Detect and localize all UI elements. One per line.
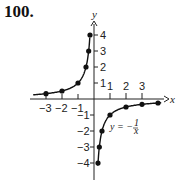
- y-axis-label: y: [91, 8, 97, 20]
- x-tick-label: −3: [39, 102, 52, 114]
- svg-text:x: x: [133, 125, 139, 136]
- hyperbola-graph: xy−3−2−11231234−1−2−3−4y = −1x: [0, 0, 177, 183]
- y-tick-label: 2: [100, 61, 106, 73]
- x-tick-label: 1: [107, 80, 113, 92]
- data-point: [75, 80, 80, 85]
- x-tick-label: −2: [55, 102, 68, 114]
- data-point: [87, 32, 92, 37]
- y-tick-label: −2: [77, 125, 90, 137]
- x-tick-label: 3: [139, 80, 145, 92]
- y-tick-label: 4: [100, 29, 106, 41]
- curve-left-branch: [33, 38, 90, 95]
- y-tick-label: −4: [77, 157, 90, 169]
- data-point: [139, 102, 144, 107]
- data-point: [59, 88, 64, 93]
- x-tick-label: 2: [123, 80, 129, 92]
- data-point: [95, 160, 100, 165]
- data-point: [123, 104, 128, 109]
- data-point: [43, 91, 48, 96]
- data-point: [86, 48, 91, 53]
- y-tick-label: −3: [77, 141, 90, 153]
- y-tick-label: −1: [77, 109, 90, 121]
- data-point: [83, 64, 88, 69]
- y-tick-label: 3: [100, 45, 106, 57]
- curve-right-branch: [98, 103, 161, 166]
- equation-label: y = −: [109, 121, 133, 132]
- data-point: [97, 144, 102, 149]
- y-tick-label: 1: [100, 77, 106, 89]
- tick-labels: xy−3−2−11231234−1−2−3−4y = −1x: [39, 8, 175, 169]
- data-point: [107, 112, 112, 117]
- data-point: [99, 128, 104, 133]
- data-point: [155, 100, 160, 105]
- x-axis-label: x: [169, 93, 175, 105]
- x-arrow-icon: [164, 96, 169, 102]
